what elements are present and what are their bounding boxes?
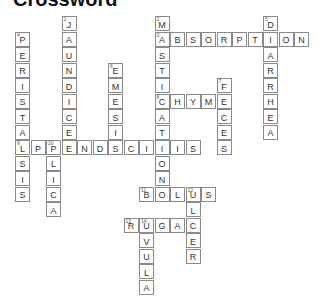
crossword-cell[interactable]: E [217, 125, 232, 140]
crossword-cell[interactable]: E [217, 94, 232, 109]
crossword-cell[interactable]: I [139, 140, 154, 155]
crossword-cell[interactable]: I [263, 32, 278, 47]
crossword-cell[interactable]: E [62, 140, 77, 155]
crossword-cell[interactable]: T [15, 109, 30, 124]
crossword-cell[interactable]: D [93, 140, 108, 155]
crossword-cell[interactable]: N [155, 171, 170, 186]
crossword-cell[interactable]: 5D [263, 16, 278, 31]
crossword-cell[interactable]: 6E [108, 63, 123, 78]
cell-letter: I [21, 175, 24, 185]
crossword-cell[interactable]: H [170, 94, 185, 109]
crossword-cell[interactable]: I [108, 125, 123, 140]
crossword-cell[interactable]: H [263, 94, 278, 109]
crossword-cell[interactable]: A [170, 218, 185, 233]
crossword-cell[interactable]: P [31, 140, 46, 155]
crossword-cell[interactable]: S [186, 32, 201, 47]
crossword-cell[interactable]: L [46, 156, 61, 171]
crossword-cell[interactable]: C [217, 109, 232, 124]
crossword-cell[interactable]: B [170, 32, 185, 47]
crossword-cell[interactable]: E [62, 125, 77, 140]
cell-letter: V [143, 237, 149, 247]
crossword-cell[interactable]: L [170, 187, 185, 202]
crossword-cell[interactable]: A [46, 202, 61, 217]
crossword-cell[interactable]: S [15, 187, 30, 202]
crossword-cell[interactable]: E [108, 94, 123, 109]
crossword-cell[interactable]: M [201, 94, 216, 109]
crossword-cell[interactable]: R [263, 78, 278, 93]
crossword-cell[interactable]: I [15, 78, 30, 93]
crossword-cell[interactable]: S [15, 94, 30, 109]
cell-letter: E [66, 128, 72, 138]
crossword-cell[interactable]: S [15, 156, 30, 171]
crossword-cell[interactable]: 9L [15, 140, 30, 155]
crossword-cell[interactable]: 8C [155, 94, 170, 109]
crossword-cell[interactable]: D [62, 78, 77, 93]
crossword-cell[interactable]: U [62, 47, 77, 62]
crossword-cell[interactable]: 10P [46, 140, 61, 155]
crossword-cell[interactable]: T [248, 32, 263, 47]
crossword-cell[interactable]: L [186, 202, 201, 217]
crossword-cell[interactable]: O [155, 156, 170, 171]
crossword-cell[interactable]: E [15, 47, 30, 62]
crossword-cell[interactable]: 1J [62, 16, 77, 31]
crossword-cell[interactable]: 3A [155, 32, 170, 47]
crossword-cell[interactable]: E [263, 109, 278, 124]
crossword-cell[interactable]: R [217, 32, 232, 47]
crossword-cell[interactable]: A [139, 280, 154, 295]
crossword-cell[interactable]: C [62, 109, 77, 124]
crossword-cell[interactable]: C [124, 140, 139, 155]
cell-letter: P [236, 35, 242, 45]
crossword-cell[interactable]: T [155, 125, 170, 140]
crossword-cell[interactable]: U [139, 249, 154, 264]
crossword-cell[interactable]: A [263, 47, 278, 62]
crossword-cell[interactable]: S [201, 187, 216, 202]
cell-letter: C [221, 113, 228, 123]
crossword-cell[interactable]: G [155, 218, 170, 233]
crossword-cell[interactable]: I [155, 78, 170, 93]
crossword-cell[interactable]: I [46, 171, 61, 186]
crossword-cell[interactable]: L [139, 264, 154, 279]
crossword-cell[interactable]: A [15, 125, 30, 140]
crossword-cell[interactable]: 13R [124, 218, 139, 233]
crossword-cell[interactable]: N [77, 140, 92, 155]
crossword-cell[interactable]: S [108, 140, 123, 155]
crossword-cell[interactable]: S [155, 47, 170, 62]
crossword-cell[interactable]: 4P [15, 32, 30, 47]
crossword-cell[interactable]: O [155, 187, 170, 202]
crossword-cell[interactable]: I [15, 171, 30, 186]
cell-letter: I [161, 82, 164, 92]
crossword-cell[interactable]: 2M [155, 16, 170, 31]
crossword-cell[interactable]: C [186, 218, 201, 233]
crossword-cell[interactable]: N [294, 32, 309, 47]
crossword-cell[interactable]: A [62, 32, 77, 47]
crossword-cell[interactable]: P [232, 32, 247, 47]
crossword-cell[interactable]: R [15, 63, 30, 78]
crossword-cell[interactable]: A [263, 125, 278, 140]
crossword-cell[interactable]: R [186, 249, 201, 264]
crossword-cell[interactable]: M [108, 78, 123, 93]
crossword-cell[interactable]: 12U [186, 187, 201, 202]
crossword-cell[interactable]: V [139, 233, 154, 248]
crossword-cell[interactable]: I [170, 140, 185, 155]
crossword-cell[interactable]: 14U [139, 218, 154, 233]
crossword-cell[interactable]: 7F [217, 78, 232, 93]
crossword-cell[interactable]: C [46, 187, 61, 202]
cell-letter: F [221, 82, 227, 92]
crossword-cell[interactable]: 11B [139, 187, 154, 202]
crossword-cell[interactable]: O [279, 32, 294, 47]
cell-letter: R [190, 252, 197, 262]
crossword-cell[interactable]: S [186, 140, 201, 155]
crossword-cell[interactable]: A [155, 109, 170, 124]
crossword-cell[interactable]: T [155, 63, 170, 78]
cell-letter: C [190, 221, 197, 231]
crossword-cell[interactable]: I [155, 140, 170, 155]
crossword-cell[interactable]: S [217, 140, 232, 155]
crossword-cell[interactable]: O [201, 32, 216, 47]
crossword-cell[interactable]: Y [186, 94, 201, 109]
clue-number: 2 [157, 17, 160, 22]
crossword-cell[interactable]: E [186, 233, 201, 248]
crossword-cell[interactable]: R [263, 63, 278, 78]
crossword-cell[interactable]: N [62, 63, 77, 78]
crossword-cell[interactable]: S [108, 109, 123, 124]
crossword-cell[interactable]: I [62, 94, 77, 109]
